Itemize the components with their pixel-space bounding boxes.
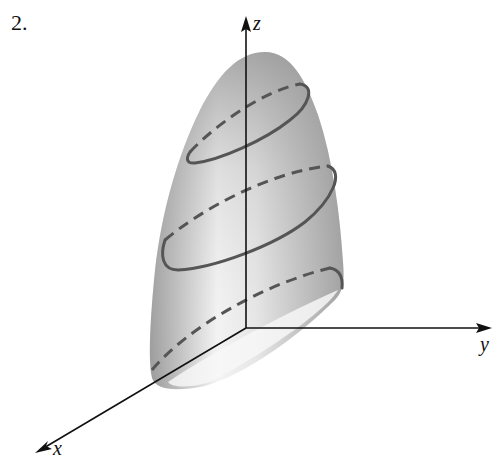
z-axis-label: z [253,12,261,35]
surface-diagram [0,0,494,465]
x-axis [42,328,246,449]
x-axis-label: x [53,437,62,460]
x-arrowhead-icon [35,441,52,453]
y-axis-label: y [480,333,489,356]
